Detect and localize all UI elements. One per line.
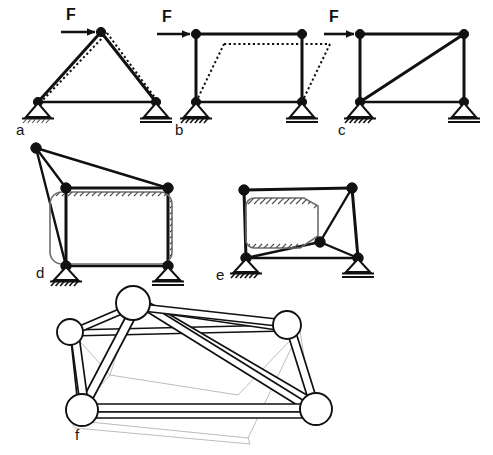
ball-joint-node bbox=[273, 311, 301, 339]
ball-joint-node bbox=[300, 393, 332, 425]
figure-b: F b bbox=[157, 8, 330, 138]
hatched-infill-panel bbox=[236, 194, 328, 254]
roller-support bbox=[140, 103, 172, 122]
pin-joint-node bbox=[315, 237, 325, 247]
roller-support bbox=[342, 259, 374, 277]
tubular-member bbox=[80, 404, 312, 412]
pinned-support bbox=[22, 103, 54, 123]
figure-f: f bbox=[57, 286, 332, 444]
pin-joint-node bbox=[459, 29, 468, 38]
pin-joint-node bbox=[163, 183, 173, 193]
pin-joint-node bbox=[347, 183, 357, 193]
figure-sheet: F a bbox=[0, 0, 493, 455]
pinned-support bbox=[50, 267, 82, 286]
roller-support bbox=[152, 267, 184, 285]
pin-joint-node bbox=[297, 29, 306, 38]
figure-e: e bbox=[216, 183, 374, 283]
ball-joint-node bbox=[57, 319, 83, 345]
outrigger-bars bbox=[36, 148, 168, 266]
pin-joint-node bbox=[61, 183, 71, 193]
pin-joint-node bbox=[355, 29, 364, 38]
force-label-a: F bbox=[66, 6, 76, 23]
force-label-c: F bbox=[329, 8, 339, 25]
pinned-support bbox=[180, 103, 212, 123]
figure-label-d: d bbox=[36, 264, 44, 281]
figure-d: d bbox=[31, 143, 184, 286]
pin-joint-node bbox=[239, 185, 249, 195]
figure-label-b: b bbox=[175, 121, 183, 138]
figure-label-e: e bbox=[216, 266, 224, 283]
pinned-support bbox=[230, 259, 262, 278]
pin-joint-node bbox=[96, 27, 105, 36]
figure-a: F a bbox=[16, 6, 172, 138]
pinned-support bbox=[344, 103, 376, 123]
force-label-b: F bbox=[162, 8, 172, 25]
tubular-member bbox=[80, 412, 312, 418]
figure-label-a: a bbox=[16, 121, 25, 138]
deformed-shape-dotted bbox=[40, 33, 159, 103]
roller-support bbox=[448, 103, 480, 122]
frame-members bbox=[360, 34, 464, 102]
figure-label-c: c bbox=[338, 121, 346, 138]
roller-support bbox=[286, 103, 318, 122]
ball-joint-node bbox=[116, 286, 150, 320]
deformed-shape-dotted bbox=[196, 44, 330, 102]
figure-c: F c bbox=[324, 8, 480, 138]
pin-joint-node bbox=[191, 29, 200, 38]
hatched-infill-panel bbox=[38, 186, 180, 276]
ball-joint-node bbox=[66, 394, 98, 426]
pin-joint-node bbox=[31, 143, 41, 153]
figure-canvas: F a bbox=[0, 0, 493, 455]
frame-members bbox=[66, 188, 168, 266]
